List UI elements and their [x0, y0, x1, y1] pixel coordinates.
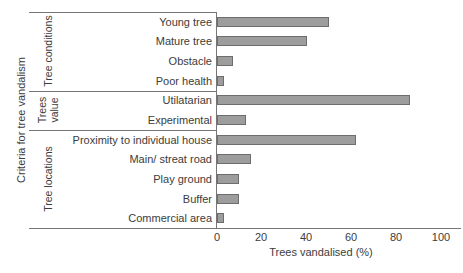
x-tick-label: 60	[331, 231, 371, 243]
category-label: Buffer	[183, 192, 212, 206]
category-label: Young tree	[159, 15, 212, 29]
x-tick-label: 80	[376, 231, 416, 243]
category-label: Play ground	[153, 172, 212, 186]
x-tick-label: 0	[197, 231, 237, 243]
bar	[217, 194, 239, 204]
x-tick-label: 40	[286, 231, 326, 243]
category-label: Commercial area	[128, 211, 212, 225]
category-label: Proximity to individual house	[73, 133, 212, 147]
category-label: Obstacle	[169, 54, 212, 68]
x-axis-line	[29, 228, 461, 229]
category-label: Utilatarian	[162, 93, 212, 107]
bar-chart-figure: Criteria for tree vandalism Young treeMa…	[0, 0, 463, 273]
bar	[217, 95, 410, 105]
bar	[217, 17, 329, 27]
bar	[217, 36, 307, 46]
group-label: Tree locations	[34, 129, 62, 229]
x-tick-label: 100	[421, 231, 461, 243]
bar	[217, 213, 224, 223]
bar	[217, 135, 356, 145]
bar	[217, 154, 251, 164]
y-axis-title: Criteria for tree vandalism	[14, 40, 28, 200]
category-label: Experimental	[148, 113, 212, 127]
x-axis-title: Trees vandalised (%)	[241, 246, 401, 258]
bar	[217, 56, 233, 66]
category-label: Main/ streat road	[129, 152, 212, 166]
bar	[217, 76, 224, 86]
bar	[217, 115, 246, 125]
category-label: Mature tree	[156, 34, 212, 48]
bar	[217, 174, 239, 184]
category-label: Poor health	[156, 74, 212, 88]
x-tick-label: 20	[241, 231, 281, 243]
